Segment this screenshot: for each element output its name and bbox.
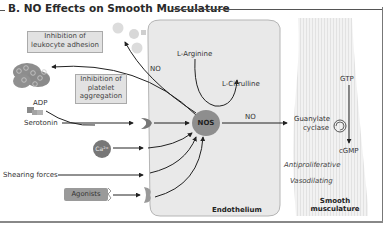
adp-label: ADP [33,99,47,107]
serotonin-label: Serotonin [24,119,58,127]
callout-line: Inhibition of [76,75,126,84]
l-citrulline-label: L-Citrulline [222,80,260,88]
callout-line: platelet [76,84,126,93]
adp-icon [27,107,43,115]
shearing-forces-label: Shearing forces [3,171,58,179]
agonist-receptor-icon [144,187,151,203]
smooth-label-line2: musculature [305,205,365,213]
callout-line: leukocyte adhesion [28,41,102,50]
smooth-label-line1: Smooth [305,197,365,205]
cgmp-label: cGMP [339,147,359,155]
callout-line: Inhibition of [28,32,102,41]
leukocyte-icon [113,23,124,34]
platelet-cluster-icon [13,63,50,88]
antiproliferative-label: Antiproliferative [284,161,341,169]
nos-enzyme: NOS [192,110,220,136]
gtp-label: GTP [340,75,354,83]
platelet-aggregation-callout: Inhibition of platelet aggregation [75,74,127,104]
no-label-left: NO [150,65,161,73]
calcium-icon: Ca²⁺ [93,140,111,158]
guanylate-cyclase-label-1: Guanylate [294,115,330,123]
guanylate-cyclase-label-2: cyclase [303,124,329,132]
agonists-box: Agonists [64,188,108,201]
no-label-right: NO [245,113,256,121]
endothelium-label: Endothelium [212,206,262,214]
leukocyte-icon [132,43,143,54]
callout-line: aggregation [76,92,126,101]
leukocyte-icon [129,29,139,39]
vasodilating-label: Vasodilating [290,177,333,185]
leukocyte-adhesion-callout: Inhibition of leukocyte adhesion [27,31,103,53]
l-arginine-label: L-Arginine [177,50,212,58]
smooth-musculature-label: Smooth musculature [305,197,365,213]
